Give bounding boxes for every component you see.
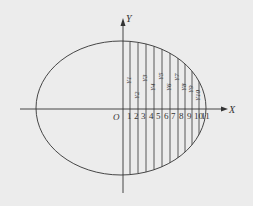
origin-label: O bbox=[113, 112, 120, 122]
ellipse-boundary bbox=[36, 41, 206, 175]
svg-text:2: 2 bbox=[134, 111, 139, 121]
svg-text:Y4: Y4 bbox=[149, 83, 157, 91]
svg-text:5: 5 bbox=[156, 111, 161, 121]
svg-text:Y6: Y6 bbox=[165, 83, 173, 91]
svg-text:4: 4 bbox=[149, 111, 154, 121]
svg-text:Y2: Y2 bbox=[133, 91, 141, 99]
svg-text:11: 11 bbox=[201, 111, 210, 121]
svg-text:6: 6 bbox=[164, 111, 169, 121]
strip-labels: Y1 Y2 Y3 Y4 Y5 Y6 Y7 Y8 Y9 Y10 bbox=[125, 72, 202, 101]
svg-text:Y7: Y7 bbox=[173, 73, 181, 81]
ellipse-strip-diagram: Y X O 1 2 3 4 5 6 7 8 9 10 11 Y1 Y2 Y3 Y… bbox=[0, 0, 253, 206]
svg-text:Y5: Y5 bbox=[157, 72, 165, 80]
svg-text:3: 3 bbox=[141, 111, 146, 121]
x-axis-label: X bbox=[228, 104, 236, 115]
x-axis-arrow-icon bbox=[221, 107, 228, 112]
svg-text:Y10: Y10 bbox=[194, 90, 202, 101]
svg-text:Y1: Y1 bbox=[125, 77, 133, 84]
y-axis-arrow-icon bbox=[121, 18, 126, 26]
y-axis-label: Y bbox=[126, 13, 133, 24]
svg-text:Y3: Y3 bbox=[141, 74, 149, 82]
svg-text:1: 1 bbox=[127, 111, 132, 121]
svg-text:9: 9 bbox=[187, 111, 192, 121]
tick-labels: 1 2 3 4 5 6 7 8 9 10 11 bbox=[127, 111, 210, 121]
svg-text:8: 8 bbox=[179, 111, 184, 121]
svg-text:7: 7 bbox=[171, 111, 176, 121]
